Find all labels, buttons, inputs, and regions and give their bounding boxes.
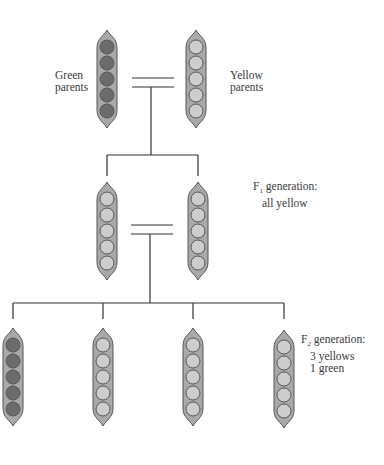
f1-line1: generation:: [263, 180, 318, 192]
yellow-pea-icon: [186, 402, 200, 416]
yellow-pea-icon: [191, 208, 205, 222]
yellow-pea-icon: [277, 404, 291, 418]
yellow-pea-icon: [186, 370, 200, 384]
f2-line3: 1 green: [301, 362, 366, 374]
yellow-pea-icon: [100, 256, 114, 270]
green-pea-icon: [6, 338, 20, 352]
green-pea-icon: [100, 104, 114, 118]
f2-line2: 3 yellows: [301, 350, 366, 362]
yellow-pea-icon: [100, 208, 114, 222]
yellow-pea-icon: [191, 224, 205, 238]
f2-generation-label: F2 generation: 3 yellows 1 green: [301, 333, 366, 374]
green-pea-icon: [6, 402, 20, 416]
green-parents-line1: Green: [55, 69, 88, 81]
yellow-pea-icon: [189, 104, 203, 118]
yellow-pea-icon: [96, 338, 110, 352]
green-parents-label: Green parents: [55, 69, 88, 93]
yellow-pea-icon: [189, 72, 203, 86]
f2-line1: generation:: [311, 333, 366, 345]
yellow-pea-icon: [277, 388, 291, 402]
green-pea-icon: [100, 56, 114, 70]
yellow-pea-icon: [189, 56, 203, 70]
yellow-pea-icon: [96, 354, 110, 368]
yellow-pea-icon: [96, 402, 110, 416]
yellow-pea-icon: [191, 192, 205, 206]
green-pea-icon: [6, 386, 20, 400]
green-parents-line2: parents: [55, 81, 88, 93]
yellow-pea-icon: [277, 340, 291, 354]
yellow-pea-icon: [277, 356, 291, 370]
yellow-parents-line1: Yellow: [230, 69, 263, 81]
yellow-pea-icon: [100, 240, 114, 254]
green-pea-icon: [100, 88, 114, 102]
green-pea-icon: [100, 72, 114, 86]
yellow-pea-icon: [100, 192, 114, 206]
f1-line2: all yellow: [253, 197, 318, 209]
yellow-pea-icon: [186, 354, 200, 368]
yellow-pea-icon: [96, 386, 110, 400]
yellow-pea-icon: [191, 240, 205, 254]
green-pea-icon: [100, 40, 114, 54]
yellow-parents-line2: parents: [230, 81, 263, 93]
yellow-pea-icon: [189, 40, 203, 54]
yellow-pea-icon: [100, 224, 114, 238]
f1-generation-label: F1 generation: all yellow: [253, 180, 318, 209]
yellow-pea-icon: [96, 370, 110, 384]
green-pea-icon: [6, 370, 20, 384]
yellow-pea-icon: [186, 338, 200, 352]
yellow-pea-icon: [189, 88, 203, 102]
yellow-pea-icon: [186, 386, 200, 400]
yellow-parents-label: Yellow parents: [230, 69, 263, 93]
green-pea-icon: [6, 354, 20, 368]
yellow-pea-icon: [277, 372, 291, 386]
yellow-pea-icon: [191, 256, 205, 270]
